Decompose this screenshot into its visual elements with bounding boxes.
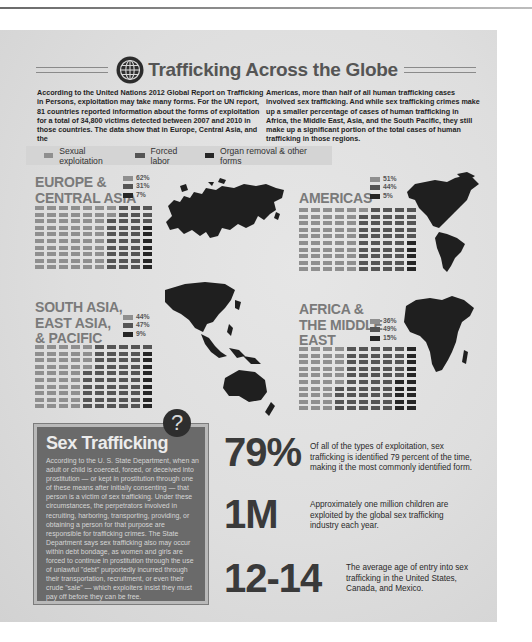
waffle-cell: [131, 358, 140, 362]
waffle-cell: [371, 221, 380, 225]
waffle-cell: [95, 398, 104, 402]
waffle-cell: [299, 354, 308, 358]
waffle-cell: [395, 380, 404, 384]
region-title-line: AMERICAS: [299, 191, 372, 207]
waffle-cell: [335, 254, 344, 258]
waffle-cell: [35, 404, 44, 408]
waffle-cell: [83, 213, 92, 217]
waffle-cell: [359, 367, 368, 371]
waffle-cell: [335, 221, 344, 225]
waffle-cell: [59, 391, 68, 395]
waffle-cell: [107, 371, 116, 375]
waffle-cell: [407, 393, 416, 397]
waffle-cell: [35, 385, 44, 389]
waffle-cell: [119, 371, 128, 375]
waffle-cell: [371, 406, 380, 410]
waffle-cell: [299, 393, 308, 397]
waffle-cell: [71, 404, 80, 408]
waffle-cell: [131, 259, 140, 263]
waffle-cell: [131, 265, 140, 269]
waffle-cell: [335, 248, 344, 252]
waffle-cell: [83, 345, 92, 349]
panel-body: According to the U. S. State Department,…: [46, 456, 199, 602]
stat-value-79-percent: 79%: [224, 430, 301, 475]
waffle-cell: [335, 406, 344, 410]
waffle-cell: [143, 246, 152, 250]
waffle-cell: [119, 365, 128, 369]
waffle-cell: [299, 373, 308, 377]
waffle-cell: [107, 232, 116, 236]
waffle-cell: [35, 398, 44, 402]
waffle-cell: [323, 261, 332, 265]
legend: Sexual exploitation Forced labor Organ r…: [26, 146, 332, 165]
legend-item-sexual: Sexual exploitation: [44, 146, 125, 166]
waffle-cell: [95, 365, 104, 369]
waffle-cell: [71, 265, 80, 269]
legend-item-forced: Forced labor: [135, 146, 194, 166]
europe-asia-map-icon: [160, 178, 290, 253]
pct-organ: 15%: [383, 334, 397, 342]
waffle-cell: [119, 358, 128, 362]
waffle-cell: [347, 387, 356, 391]
waffle-cell: [323, 373, 332, 377]
waffle-cell: [83, 219, 92, 223]
waffle-cell: [383, 234, 392, 238]
waffle-cell: [59, 398, 68, 402]
header: Trafficking Across the Globe: [36, 54, 476, 86]
waffle-cell: [323, 354, 332, 358]
waffle-cell: [35, 206, 44, 210]
waffle-cell: [95, 213, 104, 217]
waffle-cell: [335, 267, 344, 271]
waffle-cell: [71, 226, 80, 230]
waffle-cell: [83, 239, 92, 243]
waffle-cell: [71, 239, 80, 243]
legend-swatch: [135, 153, 144, 158]
waffle-cell: [395, 228, 404, 232]
waffle-cell: [35, 226, 44, 230]
waffle-cell: [71, 232, 80, 236]
waffle-cell: [107, 358, 116, 362]
waffle-cell: [107, 239, 116, 243]
legend-label: Organ removal & other forms: [220, 146, 322, 166]
waffle-cell: [371, 234, 380, 238]
waffle-cell: [335, 208, 344, 212]
waffle-cell: [95, 358, 104, 362]
waffle-cell: [71, 213, 80, 217]
waffle-cell: [59, 246, 68, 250]
waffle-cell: [47, 378, 56, 382]
waffle-cell: [347, 215, 356, 219]
waffle-cell: [371, 360, 380, 364]
waffle-cell: [35, 219, 44, 223]
region-title-americas: AMERICAS: [299, 191, 372, 207]
region-pcts-africa-middle-east: 36% 49% 15%: [370, 317, 397, 342]
waffle-cell: [359, 360, 368, 364]
waffle-cell: [59, 259, 68, 263]
waffle-cell: [119, 378, 128, 382]
waffle-cell: [311, 354, 320, 358]
waffle-cell: [35, 252, 44, 256]
waffle-cell: [383, 241, 392, 245]
waffle-cell: [383, 373, 392, 377]
waffle-cell: [119, 213, 128, 217]
waffle-cell: [107, 385, 116, 389]
waffle-cell: [335, 228, 344, 232]
waffle-cell: [347, 380, 356, 384]
waffle-cell: [323, 234, 332, 238]
americas-map-icon: [405, 172, 485, 272]
waffle-cell: [35, 371, 44, 375]
waffle-cell: [71, 206, 80, 210]
waffle-cell: [371, 228, 380, 232]
waffle-cell: [383, 347, 392, 351]
waffle-cell: [335, 347, 344, 351]
pct-organ: 9%: [136, 330, 146, 338]
waffle-cell: [299, 254, 308, 258]
legend-label: Forced labor: [151, 146, 195, 166]
waffle-cell: [71, 219, 80, 223]
waffle-cell: [371, 254, 380, 258]
waffle-cell: [95, 252, 104, 256]
waffle-cell: [47, 239, 56, 243]
waffle-cell: [335, 241, 344, 245]
globe-icon: [116, 56, 144, 84]
intro-text-right: Americas, more than half of all human tr…: [266, 88, 481, 144]
waffle-cell: [131, 219, 140, 223]
